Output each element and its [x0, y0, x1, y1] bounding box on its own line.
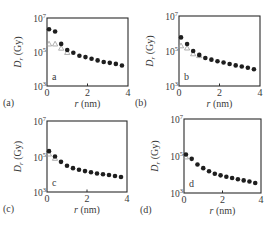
x-tick-label: 0 [177, 87, 182, 98]
plot-frame [47, 121, 127, 192]
panel-d: 024103105107Dr (Gy)r (nm)(d)d [140, 113, 264, 217]
panel-label: (d) [140, 204, 152, 216]
data-point-circle [215, 59, 220, 64]
data-point-circle [71, 166, 76, 171]
data-point-circle [184, 152, 189, 157]
data-point-circle [233, 63, 238, 68]
inset-label: d [189, 178, 194, 189]
data-point-circle [253, 181, 258, 186]
y-tick-label: 105 [33, 151, 46, 163]
x-tick-label: 4 [258, 87, 263, 98]
x-tick-label: 0 [45, 193, 50, 204]
data-point-circle [207, 169, 212, 174]
data-point-circle [203, 56, 208, 61]
data-point-circle [77, 167, 82, 172]
data-point-circle [221, 60, 226, 65]
y-axis-label: Dr (Gy) [144, 35, 157, 67]
x-axis-label: r (nm) [207, 98, 233, 110]
x-tick-label: 4 [126, 87, 131, 98]
y-tick-label: 107 [33, 12, 47, 24]
data-point-circle [201, 166, 206, 171]
data-point-circle [236, 177, 241, 182]
y-tick-label: 105 [165, 45, 178, 57]
data-point-circle [239, 64, 244, 69]
data-point-circle [107, 173, 112, 178]
data-point-circle [77, 53, 82, 58]
data-point-circle [227, 62, 232, 67]
data-point-circle [53, 154, 58, 159]
data-point-circle [252, 67, 257, 72]
data-point-circle [197, 53, 202, 58]
data-point-circle [195, 162, 200, 167]
y-tick-label: 107 [170, 113, 184, 125]
y-axis-label: Dr (Gy) [149, 140, 162, 172]
x-tick-label: 2 [217, 87, 222, 98]
data-point-circle [47, 27, 52, 32]
data-point-circle [101, 172, 106, 177]
data-point-circle [59, 160, 64, 165]
data-point-circle [83, 169, 88, 174]
x-tick-label: 4 [125, 193, 130, 204]
panel-label: (b) [135, 97, 147, 109]
data-point-circle [47, 149, 52, 154]
inset-label: a [52, 71, 57, 82]
x-axis-label: r (nm) [75, 98, 101, 110]
data-point-circle [224, 175, 229, 180]
x-tick-label: 2 [85, 87, 90, 98]
data-point-circle [65, 48, 70, 53]
data-point-circle [59, 42, 64, 47]
x-axis-label: r (nm) [210, 205, 236, 217]
panel-a: 024103105107Dr (Gy)r (nm)(a)a [3, 12, 131, 110]
data-point-circle [89, 56, 94, 61]
data-point-circle [209, 57, 214, 62]
data-point-circle [71, 50, 76, 55]
data-point-circle [218, 173, 223, 178]
x-tick-label: 2 [220, 194, 225, 205]
plot-frame [47, 18, 128, 86]
panel-b: 024103105107Dr (Gy)r (nm)(b)b [135, 10, 263, 110]
data-point-circle [119, 175, 124, 180]
panel-label: (a) [3, 97, 14, 109]
inset-label: c [52, 177, 57, 188]
y-tick-label: 105 [170, 150, 183, 162]
data-point-triangle [53, 41, 58, 46]
data-point-circle [53, 29, 58, 34]
data-point-circle [230, 176, 235, 181]
data-point-circle [95, 171, 100, 176]
data-point-circle [107, 61, 112, 66]
x-axis-label: r (nm) [74, 204, 100, 216]
data-point-circle [241, 178, 246, 183]
y-tick-label: 107 [165, 10, 179, 22]
data-point-circle [179, 35, 184, 40]
data-point-circle [213, 171, 218, 176]
data-point-circle [246, 65, 251, 70]
panel-c: 024103105107Dr (Gy)r (nm)(c)c [3, 115, 130, 216]
data-point-circle [185, 42, 190, 47]
chart-canvas: 024103105107Dr (Gy)r (nm)(a)a02410310510… [0, 0, 275, 228]
y-tick-label: 107 [33, 115, 47, 127]
data-point-circle [247, 179, 252, 184]
data-point-circle [89, 170, 94, 175]
data-point-circle [101, 60, 106, 65]
figure-grid: 024103105107Dr (Gy)r (nm)(a)a02410310510… [0, 0, 275, 228]
data-point-circle [95, 58, 100, 63]
x-tick-label: 0 [182, 194, 187, 205]
y-tick-label: 105 [33, 46, 46, 58]
data-point-circle [113, 174, 118, 179]
x-tick-label: 4 [259, 194, 264, 205]
data-point-circle [120, 63, 125, 68]
y-axis-label: Dr (Gy) [12, 36, 25, 68]
data-point-circle [189, 157, 194, 162]
data-point-circle [191, 49, 196, 54]
data-point-circle [65, 163, 70, 168]
x-tick-label: 0 [45, 87, 50, 98]
data-point-circle [114, 62, 119, 67]
panel-label: (c) [3, 203, 14, 215]
x-tick-label: 2 [85, 193, 90, 204]
inset-label: b [184, 71, 189, 82]
data-point-circle [83, 55, 88, 60]
y-axis-label: Dr (Gy) [12, 141, 25, 173]
